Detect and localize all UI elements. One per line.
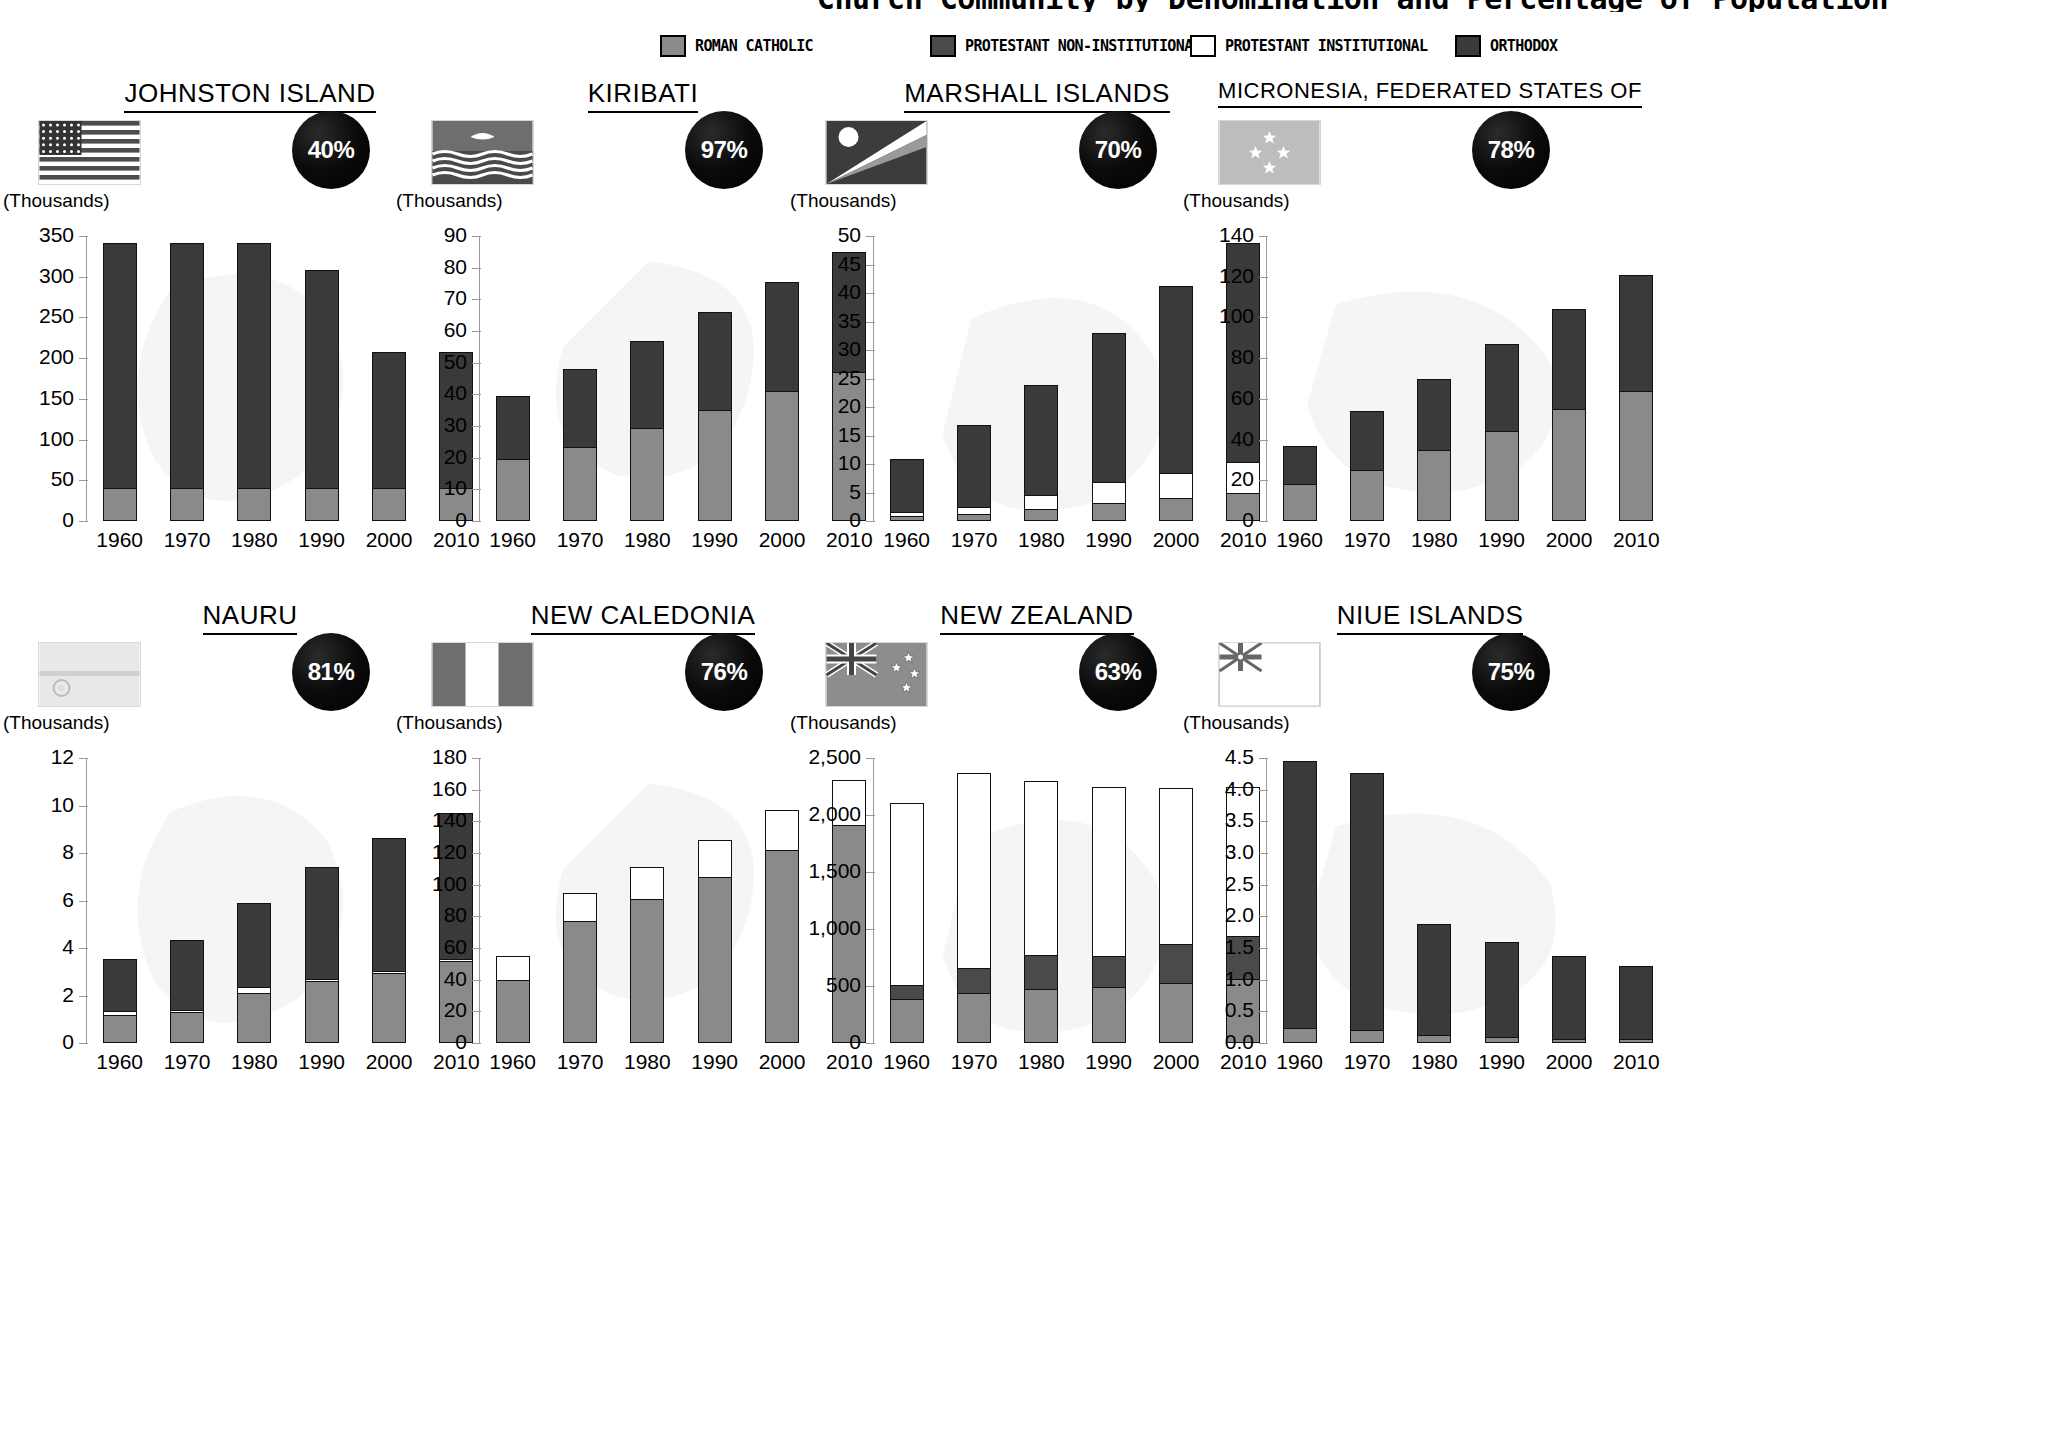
y-axis-tick: [866, 493, 875, 494]
units-label: (Thousands): [1183, 712, 1290, 734]
bar-segment-orthodox: [698, 312, 732, 410]
y-axis-tick: [472, 916, 481, 917]
y-axis-tick-label: 45: [787, 252, 861, 276]
bar-segment-roman-catholic: [563, 447, 597, 521]
y-axis-line: [1266, 236, 1267, 521]
bar-segment-roman-catholic: [1417, 1035, 1451, 1043]
bar-segment-roman-catholic: [957, 993, 991, 1043]
bar-segment-orthodox: [1417, 379, 1451, 450]
y-axis-tick: [866, 265, 875, 266]
bar-segment-orthodox: [305, 867, 339, 979]
y-axis-tick: [866, 379, 875, 380]
bar-1990: [305, 867, 339, 1043]
y-axis-tick: [472, 853, 481, 854]
y-axis-tick: [1259, 821, 1268, 822]
y-axis-tick: [472, 489, 481, 490]
y-axis-line: [1266, 758, 1267, 1043]
y-axis-tick: [472, 236, 481, 237]
y-axis-tick-label: 0: [0, 508, 74, 532]
y-axis-tick-label: 10: [787, 451, 861, 475]
legend-label: ORTHODOX: [1490, 37, 1557, 55]
y-axis-tick: [472, 331, 481, 332]
y-axis-tick: [1259, 358, 1268, 359]
bar-1960: [103, 959, 137, 1043]
bar-segment-orthodox: [1417, 924, 1451, 1035]
y-axis-tick: [866, 407, 875, 408]
y-axis-tick-label: 35: [787, 309, 861, 333]
y-axis-tick: [1259, 277, 1268, 278]
bar-segment-roman-catholic: [957, 514, 991, 521]
y-axis-tick: [79, 317, 88, 318]
page-title: Church Community by Denomination and Per…: [660, 0, 2045, 12]
bar-segment-roman-catholic: [1350, 470, 1384, 521]
y-axis-tick-label: 3.5: [1180, 808, 1254, 832]
legend-label: PROTESTANT INSTITUTIONAL: [1225, 37, 1427, 55]
y-axis-tick-label: 4: [0, 935, 74, 959]
y-axis-tick: [866, 929, 875, 930]
kiribati-flag: [431, 120, 534, 185]
bar-segment-orthodox: [170, 940, 204, 1010]
y-axis-tick: [79, 399, 88, 400]
y-axis-tick: [472, 790, 481, 791]
y-axis-tick: [79, 277, 88, 278]
bar-segment-orthodox: [630, 341, 664, 428]
bar-segment-roman-catholic: [103, 488, 137, 521]
y-axis-tick: [472, 268, 481, 269]
y-axis-tick-label: 1,000: [787, 916, 861, 940]
y-axis-tick: [1259, 521, 1268, 522]
bar-segment-orthodox: [1283, 446, 1317, 485]
percentage-badge: 97%: [685, 111, 763, 189]
bar-1970: [957, 773, 991, 1043]
y-axis-tick-label: 20: [1180, 467, 1254, 491]
bar-segment-orthodox: [1350, 411, 1384, 470]
y-axis-tick: [1259, 1043, 1268, 1044]
bar-segment-protestant-institutional: [957, 507, 991, 514]
y-axis-tick-label: 6: [0, 888, 74, 912]
bar-1960: [890, 803, 924, 1043]
y-axis-tick-label: 100: [1180, 304, 1254, 328]
y-axis-tick-label: 60: [1180, 386, 1254, 410]
bar-segment-roman-catholic: [563, 921, 597, 1043]
y-axis-tick: [1259, 853, 1268, 854]
y-axis-tick: [472, 885, 481, 886]
bar-segment-orthodox: [563, 369, 597, 447]
y-axis-line: [86, 236, 87, 521]
bar-1960: [890, 459, 924, 521]
y-axis-tick-label: 250: [0, 304, 74, 328]
y-axis-tick-label: 15: [787, 423, 861, 447]
y-axis-tick-label: 0: [393, 1030, 467, 1054]
bar-segment-orthodox: [1283, 761, 1317, 1028]
bar-segment-protestant-non-institutional: [1024, 955, 1058, 990]
bar-1970: [563, 369, 597, 521]
bar-segment-orthodox: [1092, 333, 1126, 481]
y-axis-tick: [1259, 236, 1268, 237]
y-axis-tick-label: 0: [0, 1030, 74, 1054]
y-axis-tick: [79, 948, 88, 949]
bar-segment-orthodox: [103, 243, 137, 488]
y-axis-tick: [472, 980, 481, 981]
y-axis-tick-label: 2,000: [787, 802, 861, 826]
bar-segment-protestant-institutional: [563, 893, 597, 921]
y-axis-tick: [866, 350, 875, 351]
bar-segment-orthodox: [1485, 344, 1519, 432]
percentage-badge: 81%: [292, 633, 370, 711]
y-axis-line: [873, 758, 874, 1043]
y-axis-tick: [866, 986, 875, 987]
bar-1980: [630, 341, 664, 522]
y-axis-tick-label: 200: [0, 345, 74, 369]
bar-1980: [630, 867, 664, 1043]
y-axis-tick: [79, 1043, 88, 1044]
y-axis-tick: [1259, 948, 1268, 949]
bar-1970: [957, 425, 991, 521]
units-label: (Thousands): [396, 712, 503, 734]
y-axis-tick-label: 180: [393, 745, 467, 769]
bar-1980: [1024, 385, 1058, 521]
micronesia-flag: [1218, 120, 1321, 185]
y-axis-tick-label: 2: [0, 983, 74, 1007]
chart-title: MICRONESIA, FEDERATED STATES OF: [1180, 78, 1680, 104]
bar-1990: [1092, 333, 1126, 521]
legend-swatch-roman_catholic: [660, 35, 686, 57]
bar-segment-orthodox: [1619, 275, 1653, 391]
bar-segment-protestant-non-institutional: [890, 985, 924, 998]
bar-segment-orthodox: [1619, 966, 1653, 1039]
